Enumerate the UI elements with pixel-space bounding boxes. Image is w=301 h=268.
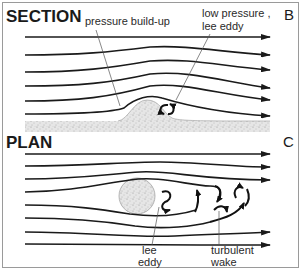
plan-panel: PLAN C lee eddy tur — [6, 133, 294, 268]
plan-heading: PLAN — [6, 133, 52, 152]
flow-diagram: SECTION B pressure build-up low pressure… — [0, 0, 301, 268]
eddy-label: eddy — [138, 256, 162, 268]
wake-label: wake — [210, 256, 237, 268]
pressure-build-up-label: pressure build-up — [85, 15, 170, 27]
lee-label: lee — [142, 244, 157, 256]
plan-panel-letter: C — [283, 133, 294, 150]
section-heading: SECTION — [6, 7, 82, 26]
turbulent-label: turbulent — [211, 244, 254, 256]
sediment-bed — [25, 100, 270, 132]
section-panel: SECTION B pressure build-up low pressure… — [6, 6, 294, 132]
obstacle-boulder — [119, 178, 155, 214]
lee-eddy-leader-line — [152, 207, 159, 245]
lee-eddy-label: lee eddy — [202, 20, 244, 32]
plan-turbulent-eddies — [162, 186, 249, 222]
low-pressure-label: low pressure , — [202, 7, 270, 19]
section-panel-letter: B — [284, 6, 294, 23]
